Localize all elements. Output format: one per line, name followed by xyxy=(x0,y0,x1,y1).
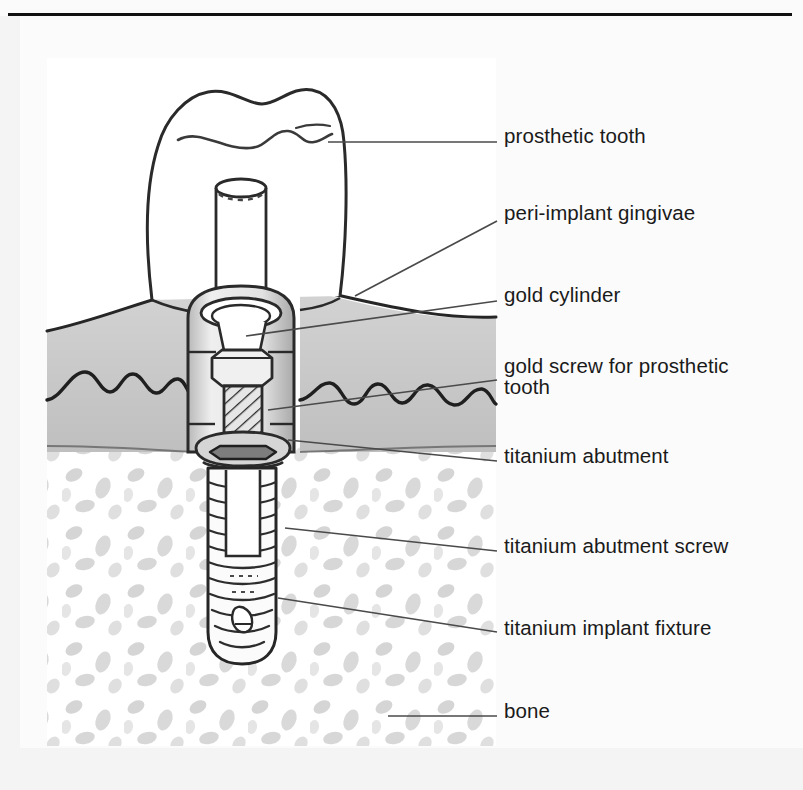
label-prosthetic-tooth: prosthetic tooth xyxy=(504,126,646,147)
abutment-platform-shape xyxy=(196,432,290,468)
label-titanium-implant-fixture: titanium implant fixture xyxy=(504,618,711,639)
label-gold-screw-for-prosthetic-tooth: gold screw for prosthetic tooth xyxy=(504,356,729,398)
leader-peri-implant-gingivae xyxy=(355,221,497,296)
label-bone: bone xyxy=(504,701,550,722)
label-titanium-abutment-screw: titanium abutment screw xyxy=(504,536,728,557)
label-titanium-abutment: titanium abutment xyxy=(504,446,669,467)
titanium-implant-fixture-shape xyxy=(208,468,276,664)
label-peri-implant-gingivae: peri-implant gingivae xyxy=(504,203,695,224)
label-gold-cylinder: gold cylinder xyxy=(504,285,620,306)
